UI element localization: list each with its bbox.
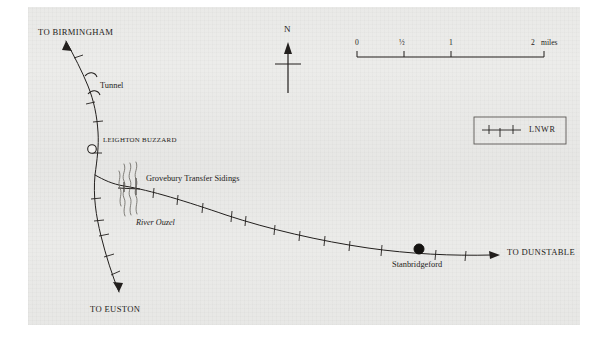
label-stanbridgeford: Stanbridgeford (392, 261, 442, 269)
railway-tick (349, 241, 350, 251)
label-tunnel: Tunnel (100, 82, 123, 90)
to-dunstable-arrowhead (489, 251, 500, 259)
label-grovebury-transfer-sidings: Grovebury Transfer Sidings (146, 175, 240, 183)
railway-tick (177, 195, 178, 205)
railway-tick (245, 216, 246, 226)
railway-tick (74, 55, 83, 58)
railway-tick (231, 211, 232, 222)
station-marker-leighton-buzzard (88, 145, 97, 154)
station-marker-stanbridgeford (414, 244, 424, 254)
river-wave (123, 164, 125, 216)
railway-tick (299, 231, 300, 241)
label-to-birmingham: TO BIRMINGHAM (38, 28, 113, 37)
compass-north-label: N (284, 25, 291, 34)
railway-tick (324, 236, 325, 246)
railway-tick (91, 198, 101, 199)
legend-entry-label-lnwr: LNWR (529, 126, 556, 134)
north-arrow-head (284, 42, 292, 54)
railway-dunstable-branch (95, 175, 492, 255)
railway-tick (202, 203, 203, 213)
railway-tick (94, 220, 104, 221)
scale-label-2: 2 (531, 39, 535, 47)
scale-bar-group (357, 51, 544, 57)
scale-label-1: 1 (449, 39, 453, 47)
railway-tick (381, 245, 382, 256)
legend-railway-symbol (482, 125, 521, 137)
label-river-ouzel: River Ouzel (136, 219, 175, 227)
railway-main-line-group (62, 41, 500, 292)
railway-tick (153, 188, 154, 198)
railway-tick (274, 225, 275, 235)
railway-tick (435, 250, 436, 260)
north-arrow-group (275, 42, 301, 93)
map-vector-layer (0, 0, 609, 349)
label-leighton-buzzard: LEIGHTON BUZZARD (103, 137, 177, 144)
railway-tick (465, 251, 466, 261)
railway-tick (93, 121, 103, 122)
map-screenshot: TO BIRMINGHAM Tunnel LEIGHTON BUZZARD Gr… (0, 0, 609, 349)
scale-label-half: ½ (399, 39, 405, 47)
railway-main-line (66, 41, 119, 292)
label-to-euston: TO EUSTON (90, 305, 140, 314)
scale-label-0: 0 (355, 39, 359, 47)
label-to-dunstable: TO DUNSTABLE (507, 248, 575, 257)
tunnel-portal-north (85, 73, 97, 77)
scale-label-units: miles (541, 39, 557, 47)
